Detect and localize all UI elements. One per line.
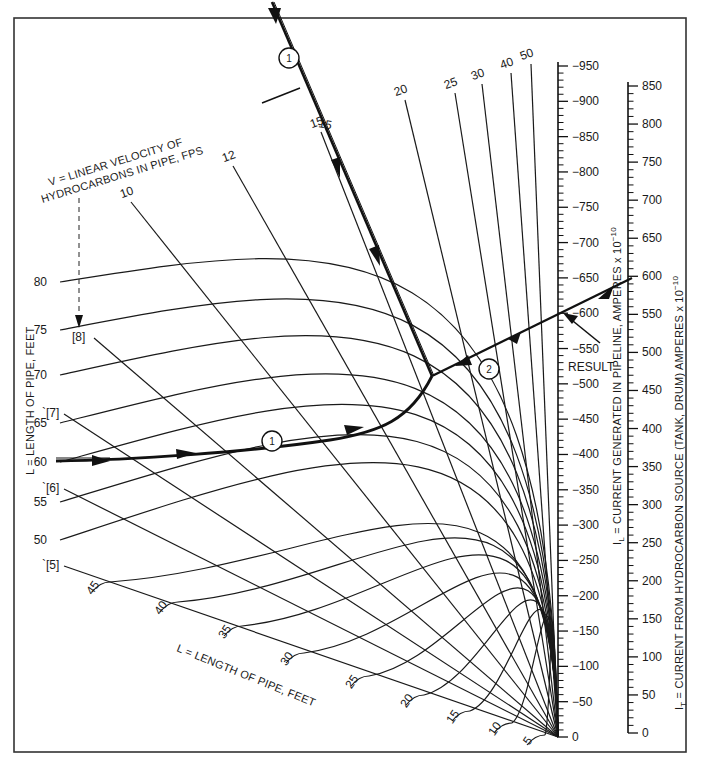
scale-tick-label: −400	[572, 447, 599, 461]
velocity-label-`[7]: `[7]	[42, 406, 59, 420]
scale-tick-label: −650	[572, 271, 599, 285]
scale-tick-label: 100	[642, 650, 662, 664]
scale-tick-label: 500	[642, 345, 662, 359]
length-label-50: 50	[34, 533, 48, 547]
scale-tick-label: −950	[572, 59, 599, 73]
start-velocity-label: 15	[317, 116, 333, 132]
scale-tick-label: 750	[642, 155, 662, 169]
scale-tick-label: −700	[572, 236, 599, 250]
scale-tick-label: −150	[572, 624, 599, 638]
scale-tick-label: 300	[642, 498, 662, 512]
step-marker-2: 2	[479, 359, 499, 379]
scale-tick-label: 850	[642, 79, 662, 93]
scale-tick-label: −100	[572, 659, 599, 673]
scale-tick-label: 0	[572, 730, 579, 744]
scale-tick-label: −50	[572, 695, 593, 709]
scale-tick-label: 0	[642, 726, 649, 740]
scale-tick-label: −850	[572, 130, 599, 144]
length-axis-title-left: L = LENGTH OF PIPE, FEET	[24, 327, 36, 475]
scale-tick-label: 800	[642, 117, 662, 131]
nomograph-chart: 0−50−100−150−200−250−300−350−400−450−500…	[0, 0, 709, 766]
scale-tick-label: 150	[642, 612, 662, 626]
scale-tick-label: −550	[572, 342, 599, 356]
scale-tick-label: −500	[572, 377, 599, 391]
scale-tick-label: 200	[642, 574, 662, 588]
scale-tick-label: −900	[572, 94, 599, 108]
scale-tick-label: 50	[642, 688, 656, 702]
length-label-80: 80	[34, 275, 48, 289]
scale-tick-label: −300	[572, 518, 599, 532]
svg-text:2: 2	[486, 364, 492, 375]
scale-tick-label: 650	[642, 231, 662, 245]
scale-tick-label: −200	[572, 589, 599, 603]
scale-tick-label: 550	[642, 307, 662, 321]
velocity-label-[8]: [8]	[72, 330, 85, 344]
svg-text:1: 1	[286, 53, 292, 64]
scale-tick-label: −450	[572, 412, 599, 426]
scale-tick-label: −800	[572, 165, 599, 179]
scale-tick-label: −250	[572, 553, 599, 567]
length-label-55: 55	[34, 495, 48, 509]
scale-tick-label: 450	[642, 383, 662, 397]
scale-tick-label: −750	[572, 200, 599, 214]
velocity-label-`[5]: `[5]	[42, 558, 59, 572]
step-marker-1-top: 1	[279, 48, 299, 68]
result-label: RESULT	[568, 360, 615, 374]
scale-tick-label: 400	[642, 422, 662, 436]
step-marker-1-mid: 1	[262, 431, 282, 451]
scale-tick-label: 600	[642, 269, 662, 283]
scale-tick-label: −350	[572, 483, 599, 497]
svg-text:1: 1	[269, 436, 275, 447]
scale-tick-label: 250	[642, 536, 662, 550]
scale-tick-label: 350	[642, 460, 662, 474]
scale-tick-label: 700	[642, 193, 662, 207]
velocity-label-`[6]: `[6]	[42, 481, 59, 495]
